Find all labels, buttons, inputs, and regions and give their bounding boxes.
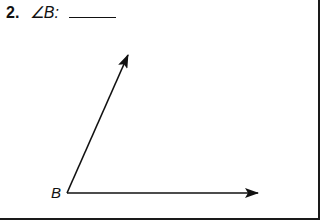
vertex-label: B	[51, 184, 61, 201]
angle-diagram	[0, 0, 325, 220]
ray-up	[67, 55, 128, 193]
